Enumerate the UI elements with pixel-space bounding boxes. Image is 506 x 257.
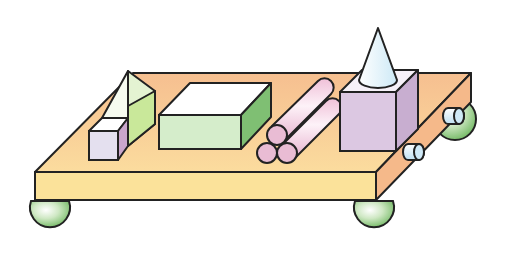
cart-illustration — [0, 0, 506, 257]
wheel-front-left — [30, 201, 70, 227]
wheel-front-right — [354, 201, 394, 227]
cone — [359, 28, 397, 88]
axle-cylinder-back — [443, 108, 464, 124]
axle-cylinder-front — [403, 144, 424, 160]
board-front — [35, 172, 376, 200]
small-cube — [89, 118, 128, 160]
